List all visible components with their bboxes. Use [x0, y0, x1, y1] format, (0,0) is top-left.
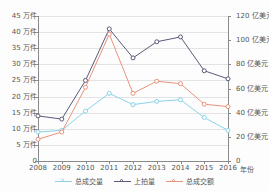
data-point-marker	[131, 103, 135, 107]
data-point-marker	[60, 130, 64, 134]
y-axis-right-tick-label: 100 亿美元	[236, 36, 269, 44]
legend-label: 总成交量	[75, 176, 103, 186]
data-point-marker	[131, 56, 135, 60]
y-axis-left-tick-label: 5 万件	[16, 141, 37, 149]
y-axis-left-tick-label: 40 万件	[12, 28, 37, 36]
x-axis-tick-label: 2015	[191, 164, 217, 172]
data-point-marker	[36, 137, 40, 141]
data-point-marker	[107, 27, 111, 31]
data-point-marker	[202, 116, 206, 120]
legend-swatch-icon	[166, 178, 183, 185]
y-axis-right-tick-label: 60 亿美元	[236, 85, 268, 93]
legend-item[interactable]: 总成交额	[166, 176, 214, 186]
series-line	[38, 93, 228, 132]
chart-legend: 总成交量上拍量总成交额	[0, 176, 269, 186]
y-axis-right-line	[228, 16, 229, 162]
x-axis-tick-label: 2008	[25, 164, 51, 172]
x-axis-tick-label: 2016	[215, 164, 241, 172]
x-axis-tick-label: 2014	[168, 164, 194, 172]
plot-area	[38, 16, 228, 161]
data-point-marker	[155, 40, 159, 44]
chart-container: 05 万件10 万件15 万件20 万件25 万件30 万件35 万件40 万件…	[0, 0, 269, 191]
data-point-marker	[226, 105, 230, 109]
y-axis-left-tick-label: 10 万件	[12, 125, 37, 133]
y-axis-right-tick-label: 120 亿美元	[236, 12, 269, 20]
x-axis-tick-label: 2010	[73, 164, 99, 172]
y-axis-left-tick-label: 20 万件	[12, 93, 37, 101]
legend-item[interactable]: 总成交量	[55, 176, 103, 186]
x-axis-tick-label: 2009	[49, 164, 75, 172]
data-point-marker	[107, 91, 111, 95]
legend-label: 总成交额	[186, 176, 214, 186]
y-axis-right-tick-label: 80 亿美元	[236, 60, 268, 68]
data-point-marker	[107, 32, 111, 36]
data-point-marker	[84, 109, 88, 113]
series-lines	[38, 16, 228, 162]
legend-swatch-icon	[55, 178, 72, 185]
series-line	[38, 34, 228, 139]
x-axis-tick-label: 2011	[96, 164, 122, 172]
legend-item[interactable]: 上拍量	[114, 176, 155, 186]
y-axis-left-tick-label: 25 万件	[12, 76, 37, 84]
data-point-marker	[155, 79, 159, 83]
y-axis-right-tick-label: 40 亿美元	[236, 109, 268, 117]
data-point-marker	[84, 78, 88, 82]
data-point-marker	[226, 77, 230, 81]
x-axis-tick-label: 2012	[120, 164, 146, 172]
x-axis-title: 年份	[240, 164, 254, 174]
legend-swatch-icon	[114, 178, 131, 185]
data-point-marker	[179, 98, 183, 102]
data-point-marker	[60, 117, 64, 121]
data-point-marker	[202, 69, 206, 73]
legend-label: 上拍量	[134, 176, 155, 186]
y-axis-left-tick-label: 35 万件	[12, 44, 37, 52]
data-point-marker	[179, 82, 183, 86]
y-axis-right-tick-label: 20 亿美元	[236, 133, 268, 141]
y-axis-left-tick-label: 30 万件	[12, 60, 37, 68]
x-axis-tick-label: 2013	[144, 164, 170, 172]
y-axis-left-tick-label: 15 万件	[12, 109, 37, 117]
data-point-marker	[36, 130, 40, 134]
data-point-marker	[226, 128, 230, 132]
data-point-marker	[36, 114, 40, 118]
data-point-marker	[84, 85, 88, 89]
data-point-marker	[202, 102, 206, 106]
y-axis-left-tick-label: 45 万件	[12, 12, 37, 20]
data-point-marker	[155, 99, 159, 103]
data-point-marker	[131, 91, 135, 95]
data-point-marker	[179, 35, 183, 39]
